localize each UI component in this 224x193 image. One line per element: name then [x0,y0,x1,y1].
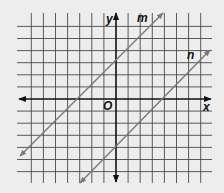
line-m-label: m [137,11,148,25]
line-n-label: n [187,48,194,62]
line-n [80,50,210,183]
origin-label: O [103,99,113,113]
coordinate-plane: y x O m n [0,0,224,193]
grid [17,13,212,183]
y-axis-label: y [105,12,114,26]
x-axis-label: x [202,100,211,114]
